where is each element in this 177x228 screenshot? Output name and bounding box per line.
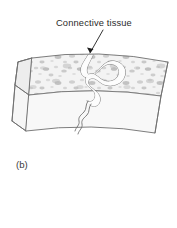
annotation-label: Connective tissue [56, 18, 132, 28]
figure-caption: (b) [16, 159, 28, 170]
block-front-face-shading [22, 86, 162, 140]
figure-container: Connective tissue (b) [0, 0, 177, 228]
annotation-leader [87, 30, 103, 53]
connective-tissue-diagram: Connective tissue (b) [0, 0, 177, 228]
tissue-block [12, 46, 172, 140]
